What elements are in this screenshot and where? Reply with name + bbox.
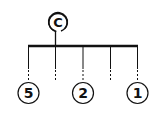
- leaf-label: 2: [78, 85, 88, 101]
- leaf-node-2: 2: [73, 83, 94, 104]
- root-label: C: [53, 15, 63, 30]
- leaf-node-5: 5: [18, 83, 39, 104]
- leaf-label: 5: [24, 85, 34, 101]
- tree-diagram: C 5 2 1: [0, 0, 157, 130]
- root-node: C: [47, 11, 69, 46]
- branches: [29, 46, 138, 82]
- leaf-node-1: 1: [127, 83, 148, 104]
- leaf-label: 1: [133, 85, 143, 101]
